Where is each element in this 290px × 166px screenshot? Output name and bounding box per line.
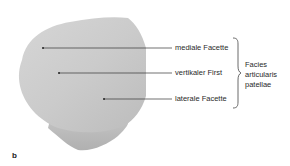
label-mediale-facette: mediale Facette	[175, 44, 228, 52]
label-vertikaler-first: vertikaler First	[175, 69, 222, 77]
panel-letter: b	[12, 151, 17, 160]
brace-icon	[233, 38, 241, 108]
group-label-line-2: articularis	[245, 70, 277, 80]
group-label-line-3: patellae	[245, 80, 277, 90]
patella-diagram: mediale Facette vertikaler First lateral…	[0, 0, 290, 166]
group-label-facies-articularis-patellae: Facies articularis patellae	[245, 60, 277, 89]
group-label-line-1: Facies	[245, 60, 277, 70]
patella-body	[19, 17, 146, 132]
label-laterale-facette: laterale Facette	[175, 95, 227, 103]
